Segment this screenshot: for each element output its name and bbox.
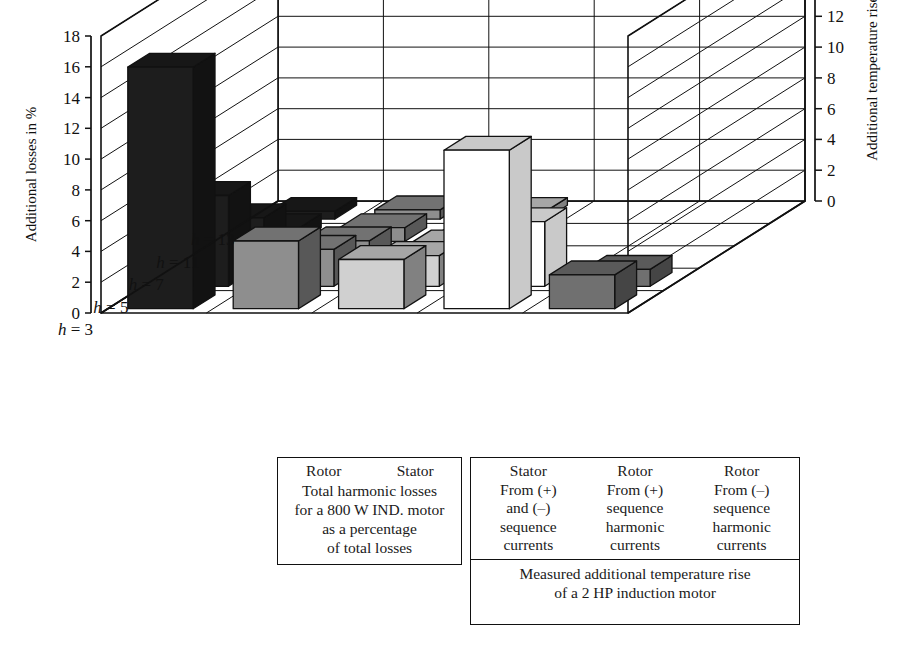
axis-right-tick-label: 10	[827, 38, 844, 57]
legend-box-temperature: Stator From (+) and (–) sequence current…	[470, 457, 800, 625]
legend-right-divider: Measured additional temperature rise of …	[471, 559, 799, 602]
legend-left-line-1: Total harmonic losses	[278, 481, 461, 500]
legend-left-line-4: of total losses	[278, 538, 461, 557]
legend-right-col2-line1: From (+)	[582, 481, 689, 500]
legend-left-header-stator: Stator	[370, 462, 462, 481]
axis-left-tick-label: 10	[63, 150, 80, 169]
legend-right-caption-2: of a 2 HP induction motor	[471, 583, 799, 602]
axis-left-tick-label: 6	[72, 212, 81, 231]
bar-side-face	[509, 136, 531, 308]
chart-back-wall	[278, 0, 805, 201]
legend-right-caption-1: Measured additional temperature rise	[471, 564, 799, 583]
legend-right-column-rotor-plus: Rotor From (+) sequence harmonic current…	[582, 462, 689, 555]
legend-left-headers: Rotor Stator	[278, 462, 461, 481]
legend-right-col3-line4: currents	[688, 536, 795, 555]
axis-right-tick-label: 0	[827, 192, 836, 211]
legend-right-col3-line2: sequence	[688, 499, 795, 518]
legend-right-columns: Stator From (+) and (–) sequence current…	[471, 462, 799, 555]
axis-left-tick-label: 2	[72, 273, 81, 292]
bar-front-face	[233, 241, 298, 309]
legend-right-col1-line3: sequence	[475, 518, 582, 537]
bar-front-face	[339, 260, 404, 309]
axis-left-title: Additional losses in %	[23, 107, 39, 242]
axis-right-tick-label: 2	[827, 161, 836, 180]
axis-left-tick-label: 16	[63, 58, 80, 77]
depth-label-3: h = 3	[58, 320, 93, 339]
legend-right-col1-line1: From (+)	[475, 481, 582, 500]
axis-left-tick-label: 4	[72, 242, 81, 261]
axis-right-tick-label: 8	[827, 69, 836, 88]
legend-right-col2-line3: harmonic	[582, 518, 689, 537]
bar-front-face	[549, 275, 614, 309]
legend-right-col1-header: Stator	[475, 462, 582, 481]
legend-left-header-rotor: Rotor	[278, 462, 370, 481]
axis-right-tick-label: 12	[827, 7, 844, 26]
axis-left-tick-label: 14	[63, 89, 81, 108]
axis-left-tick-label: 8	[72, 181, 81, 200]
legend-left-line-3: as a percentage	[278, 519, 461, 538]
axis-right-tick-label: 4	[827, 130, 836, 149]
legend-right-col3-header: Rotor	[688, 462, 795, 481]
legend-right-col2-line2: sequence	[582, 499, 689, 518]
legend-right-col2-header: Rotor	[582, 462, 689, 481]
legend-right-col3-line3: harmonic	[688, 518, 795, 537]
axis-left-tick-label: 18	[63, 27, 80, 46]
axis-left-tick-label: 12	[63, 119, 80, 138]
bar-front-face	[444, 150, 509, 309]
legend-right-col2-line4: currents	[582, 536, 689, 555]
legend-right-col3-line1: From (–)	[688, 481, 795, 500]
legend-right-column-rotor-minus: Rotor From (–) sequence harmonic current…	[688, 462, 795, 555]
legend-right-col1-line2: and (–)	[475, 499, 582, 518]
legend-right-col1-line4: currents	[475, 536, 582, 555]
axis-right-tick-label: 6	[827, 100, 836, 119]
legend-right-column-stator: Stator From (+) and (–) sequence current…	[475, 462, 582, 555]
chart-canvas: 181614121086420Additional losses in %181…	[0, 0, 906, 460]
legend-left-line-2: for a 800 W IND. motor	[278, 500, 461, 519]
axis-right-title: Additional temperature rise in %	[864, 0, 880, 161]
legend-box-losses: Rotor Stator Total harmonic losses for a…	[277, 457, 462, 565]
bar-front-face	[128, 67, 193, 309]
